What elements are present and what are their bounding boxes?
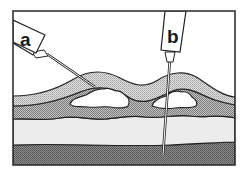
light-tissue-layer bbox=[13, 116, 235, 146]
label-a: a bbox=[20, 29, 31, 50]
injection-diagram: a b bbox=[0, 0, 247, 175]
label-b: b bbox=[167, 26, 179, 47]
